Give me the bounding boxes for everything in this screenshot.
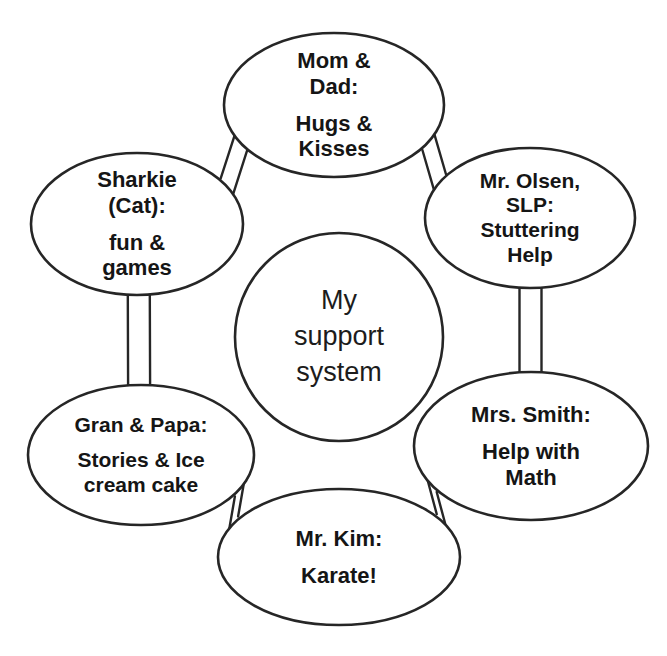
node-mr-kim-shape[interactable] <box>218 489 460 625</box>
connector-mom-dad-to-mr-olsen-edge-1 <box>433 131 446 174</box>
diagram-canvas: Mom &Dad:Hugs &KissesMr. Olsen,SLP:Stutt… <box>0 0 667 656</box>
connector-sharkie-to-mom-dad-edge-2 <box>232 151 247 197</box>
node-mrs-smith-shape[interactable] <box>414 372 648 520</box>
center-hub-circle[interactable] <box>235 233 443 441</box>
node-mom-and-dad-shape[interactable] <box>224 33 444 177</box>
connector-mr-olsen-to-mrs-smith <box>520 287 542 373</box>
node-gran-and-papa-shape[interactable] <box>28 385 254 525</box>
connector-mom-dad-to-mr-olsen-edge-2 <box>422 150 435 193</box>
connector-sharkie-to-mom-dad-edge-1 <box>221 132 236 178</box>
node-mr-olsen-slp-shape[interactable] <box>425 148 635 288</box>
connector-gran-papa-to-sharkie <box>128 294 150 387</box>
diagram-svg <box>0 0 667 656</box>
node-sharkie-cat-shape[interactable] <box>31 153 243 295</box>
